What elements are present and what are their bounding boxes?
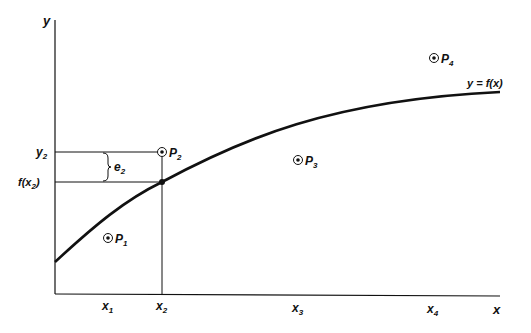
- x4-label: x4: [426, 302, 439, 318]
- curve-label: y = f(x): [466, 77, 503, 89]
- point-p4: [430, 54, 439, 63]
- p3-label: P3: [305, 154, 318, 170]
- x-axis: [55, 294, 500, 296]
- error-brace: [103, 153, 111, 181]
- p1-label: P1: [115, 232, 128, 248]
- x3-label: x3: [291, 301, 304, 317]
- point-p1: [104, 234, 113, 243]
- x1-label: x1: [101, 299, 114, 315]
- error-label: e2: [114, 160, 126, 176]
- fx2-label: f(x2): [18, 176, 40, 191]
- p2-label: P2: [169, 146, 182, 162]
- y-axis-label: y: [42, 13, 51, 28]
- point-p2: [158, 148, 167, 157]
- curve-point-fx2: [159, 179, 165, 185]
- point-p3: [294, 156, 303, 165]
- x2-label: x2: [155, 299, 168, 315]
- y2-label: y2: [35, 145, 48, 161]
- p4-label: P4: [441, 52, 454, 68]
- x-axis-label: x: [492, 302, 501, 317]
- least-squares-diagram: y x P1 P2 P3 P4 y = f(x) e2 y2 f(x2) x1 …: [0, 0, 531, 333]
